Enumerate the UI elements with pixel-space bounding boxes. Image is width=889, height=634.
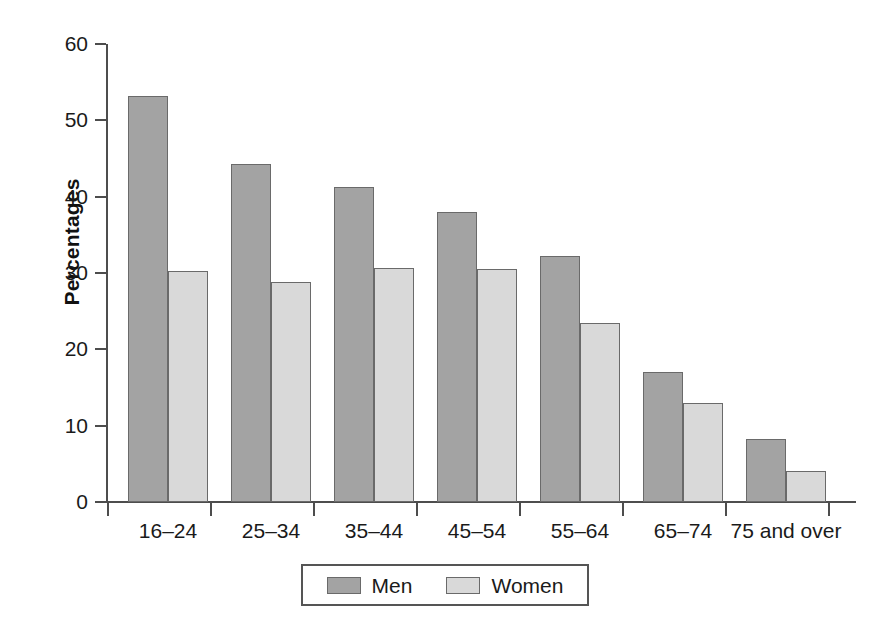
plot-area xyxy=(106,44,855,502)
y-axis-tick xyxy=(95,348,106,350)
y-axis-tick-label: 10 xyxy=(30,415,88,436)
legend-swatch-women-icon xyxy=(446,577,480,594)
bar-men-5 xyxy=(643,372,683,502)
x-axis-tick xyxy=(725,503,727,516)
x-axis-tick xyxy=(107,503,109,516)
y-axis-tick-label: 20 xyxy=(30,338,88,359)
legend-swatch-men-icon xyxy=(327,577,361,594)
bar-men-6 xyxy=(746,439,786,502)
x-axis-tick xyxy=(622,503,624,516)
bar-men-3 xyxy=(437,212,477,502)
legend-entry-men: Men xyxy=(327,575,413,596)
bar-women-0 xyxy=(168,271,208,502)
y-axis-tick xyxy=(95,196,106,198)
y-axis-tick-label: 60 xyxy=(30,33,88,54)
x-axis-tick xyxy=(519,503,521,516)
y-axis-tick-label: 30 xyxy=(30,262,88,283)
bar-men-2 xyxy=(334,187,374,502)
y-axis-tick xyxy=(95,425,106,427)
legend-label-men: Men xyxy=(372,575,413,596)
bar-women-3 xyxy=(477,269,517,502)
bar-women-6 xyxy=(786,471,826,502)
y-axis-tick xyxy=(95,272,106,274)
bar-men-1 xyxy=(231,164,271,502)
x-axis-tick xyxy=(313,503,315,516)
bar-women-5 xyxy=(683,403,723,502)
legend-entry-women: Women xyxy=(446,575,563,596)
y-axis-tick xyxy=(95,501,106,503)
bar-women-4 xyxy=(580,323,620,502)
legend-label-women: Women xyxy=(491,575,563,596)
chart-legend: Men Women xyxy=(301,564,589,606)
y-axis-tick-label: 50 xyxy=(30,109,88,130)
y-axis-tick xyxy=(95,43,106,45)
x-axis-tick xyxy=(210,503,212,516)
x-axis-tick-label: 75 and over xyxy=(706,519,866,543)
bar-women-1 xyxy=(271,282,311,502)
bar-women-2 xyxy=(374,268,414,502)
y-axis-tick xyxy=(95,119,106,121)
chart-page: Percentages 0102030405060 16–2425–3435–4… xyxy=(0,0,889,634)
y-axis-tick-labels: 0102030405060 xyxy=(18,0,88,520)
x-axis-tick xyxy=(828,503,830,516)
bar-men-4 xyxy=(540,256,580,502)
x-axis-tick xyxy=(416,503,418,516)
y-axis-tick-label: 0 xyxy=(30,491,88,512)
bar-men-0 xyxy=(128,96,168,502)
y-axis-tick-label: 40 xyxy=(30,186,88,207)
